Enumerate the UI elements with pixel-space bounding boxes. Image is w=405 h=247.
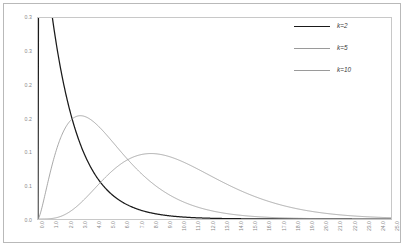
x-tick-label: 2.0 xyxy=(68,221,74,228)
y-tick-label: 0.2 xyxy=(24,116,32,122)
x-tick-label: 20.0 xyxy=(323,221,329,231)
x-tick-label: 7.0 xyxy=(139,221,145,228)
legend-swatch xyxy=(294,48,330,49)
x-tick-label: 0.0 xyxy=(39,221,45,228)
series-line-k-10 xyxy=(38,154,391,219)
x-tick-label: 6.0 xyxy=(124,221,130,228)
x-tick-label: 5.0 xyxy=(110,221,116,228)
x-tick-label: 10.0 xyxy=(181,221,187,231)
y-tick-label: 0.1 xyxy=(24,149,32,155)
legend-label: k=10 xyxy=(337,64,351,76)
figure-frame: 0.00.10.10.20.20.30.3 0.01.02.03.04.05.0… xyxy=(3,3,401,243)
y-tick-label: 0.1 xyxy=(24,183,32,189)
y-tick-label: 0.3 xyxy=(24,48,32,54)
x-tick-label: 8.0 xyxy=(153,221,159,228)
legend-item: k=5 xyxy=(292,42,390,54)
x-tick-label: 21.0 xyxy=(337,221,343,231)
x-tick-label: 4.0 xyxy=(96,221,102,228)
legend-label: k=2 xyxy=(337,20,347,32)
x-tick-label: 23.0 xyxy=(366,221,372,231)
x-tick-label: 15.0 xyxy=(252,221,258,231)
y-tick-label: 0.3 xyxy=(24,14,32,20)
legend-item: k=2 xyxy=(292,20,390,32)
legend-item: k=10 xyxy=(292,64,390,76)
chart-screenshot: 0.00.10.10.20.20.30.3 0.01.02.03.04.05.0… xyxy=(0,0,405,247)
y-axis: 0.00.10.10.20.20.30.3 xyxy=(4,17,35,220)
x-tick-label: 1.0 xyxy=(53,221,59,228)
legend-label: k=5 xyxy=(337,42,347,54)
x-tick-label: 18.0 xyxy=(295,221,301,231)
x-tick-label: 19.0 xyxy=(309,221,315,231)
x-tick-label: 9.0 xyxy=(167,221,173,228)
x-axis: 0.01.02.03.04.05.06.07.08.09.010.011.012… xyxy=(37,221,392,247)
x-tick-label: 25.0 xyxy=(394,221,400,231)
x-tick-label: 11.0 xyxy=(195,221,201,231)
x-tick-label: 12.0 xyxy=(210,221,216,231)
x-tick-label: 13.0 xyxy=(224,221,230,231)
x-tick-label: 22.0 xyxy=(352,221,358,231)
legend-swatch xyxy=(294,26,330,27)
x-tick-label: 16.0 xyxy=(266,221,272,231)
x-tick-label: 3.0 xyxy=(82,221,88,228)
x-tick-label: 17.0 xyxy=(281,221,287,231)
x-tick-label: 14.0 xyxy=(238,221,244,231)
y-tick-label: 0.2 xyxy=(24,82,32,88)
legend-swatch xyxy=(294,70,330,71)
y-tick-label: 0.0 xyxy=(24,217,32,223)
chart-legend: k=2k=5k=10 xyxy=(292,20,390,82)
x-tick-label: 24.0 xyxy=(380,221,386,231)
